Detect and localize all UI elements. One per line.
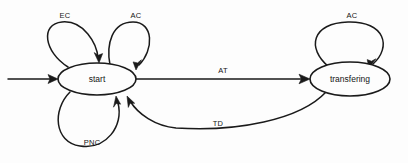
edge-ac-start-path [109, 22, 150, 65]
edge-ac-start-self-loop: AC [109, 11, 150, 70]
edge-label-ac-transferring: AC [346, 11, 357, 20]
diagram-canvas: EC AC PNC AT TD AC [0, 0, 408, 163]
edge-at-transition: AT [136, 66, 310, 84]
state-node-start-label: start [89, 74, 106, 84]
edge-label-ec: EC [59, 11, 70, 20]
edge-ac-transferring-self-loop: AC [315, 11, 383, 68]
edge-pnc-self-loop: PNC [58, 92, 120, 147]
state-node-start[interactable]: start [58, 63, 136, 95]
edge-pnc-arrow-head [114, 96, 121, 107]
state-machine-diagram: EC AC PNC AT TD AC [0, 0, 408, 163]
edge-label-td: TD [213, 119, 224, 128]
initial-state-marker [8, 75, 58, 84]
edge-label-ac-start: AC [130, 11, 141, 20]
edge-ac-start-arrow-head [133, 60, 141, 70]
edge-ec-self-loop: EC [48, 11, 103, 67]
state-node-transferring-label: transfering [330, 74, 370, 84]
edge-td-transition: TD [127, 92, 326, 129]
edge-label-at: AT [218, 66, 228, 75]
edge-ec-arrow-head [94, 53, 102, 63]
edge-ec-path [48, 22, 98, 67]
edge-td-path [130, 92, 326, 129]
edge-label-pnc: PNC [84, 138, 101, 147]
state-node-transferring[interactable]: transfering [310, 62, 390, 96]
